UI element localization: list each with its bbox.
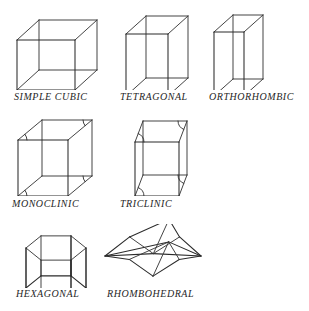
unit-cell-drawing-hexagonal bbox=[12, 224, 108, 288]
unit-cell-drawing-monoclinic bbox=[12, 118, 108, 196]
unit-cell-drawing-triclinic bbox=[113, 118, 213, 196]
unit-cell-drawing-simple-cubic bbox=[12, 12, 108, 90]
unit-cell-hexagonal bbox=[12, 224, 108, 288]
unit-cell-label-tetragonal: TETRAGONAL bbox=[120, 91, 188, 103]
unit-cell-label-rhombohedral: RHOMBOHEDRAL bbox=[107, 288, 194, 300]
unit-cell-drawing-rhombohedral bbox=[100, 224, 206, 288]
unit-cell-drawing-tetragonal bbox=[118, 12, 208, 90]
unit-cell-drawing-orthorhombic bbox=[206, 12, 302, 90]
unit-cell-label-monoclinic: MONOCLINIC bbox=[12, 198, 79, 210]
unit-cell-label-hexagonal: HEXAGONAL bbox=[16, 288, 79, 300]
unit-cell-orthorhombic bbox=[206, 12, 302, 90]
unit-cell-simple-cubic bbox=[12, 12, 108, 90]
unit-cell-label-orthorhombic: ORTHORHOMBIC bbox=[209, 91, 294, 103]
unit-cell-tetragonal bbox=[118, 12, 208, 90]
unit-cell-label-triclinic: TRICLINIC bbox=[120, 198, 172, 210]
crystal-systems-figure: SIMPLE CUBICTETRAGONALORTHORHOMBICMONOCL… bbox=[0, 0, 309, 311]
unit-cell-label-simple-cubic: SIMPLE CUBIC bbox=[14, 91, 88, 103]
unit-cell-triclinic bbox=[113, 118, 213, 196]
unit-cell-rhombohedral bbox=[100, 224, 206, 288]
unit-cell-monoclinic bbox=[12, 118, 108, 196]
